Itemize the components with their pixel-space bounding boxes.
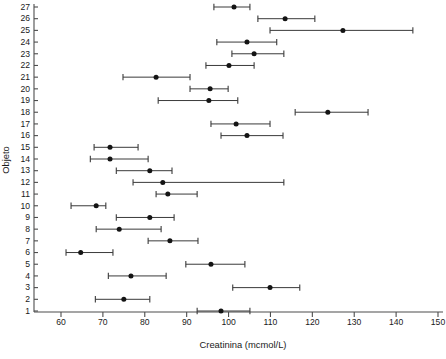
data-point-marker (147, 168, 152, 173)
data-point-marker (121, 297, 126, 302)
x-tick-label: 150 (431, 317, 446, 327)
y-tick-label: 17 (20, 119, 30, 129)
y-tick-label: 5 (25, 259, 30, 269)
x-tick-label: 90 (182, 317, 192, 327)
y-tick-label: 14 (20, 154, 30, 164)
data-point-marker (147, 215, 152, 220)
data-point-marker (128, 273, 133, 278)
x-tick-label: 70 (98, 317, 108, 327)
data-point-marker (219, 309, 224, 314)
y-axis-title: Objeto (0, 146, 11, 174)
y-tick-label: 27 (20, 2, 30, 12)
plot-background (0, 0, 446, 359)
data-point-marker (108, 157, 113, 162)
x-tick-label: 80 (140, 317, 150, 327)
y-tick-label: 3 (25, 282, 30, 292)
data-point-marker (165, 192, 170, 197)
data-point-marker (117, 227, 122, 232)
data-point-marker (325, 110, 330, 115)
y-tick-label: 11 (21, 189, 30, 199)
data-point-marker (154, 75, 159, 80)
x-axis-title: Creatinina (mcmol/L) (199, 339, 286, 350)
data-point-marker (160, 180, 165, 185)
data-point-marker (244, 40, 249, 45)
data-point-marker (94, 203, 99, 208)
data-point-marker (244, 133, 249, 138)
y-tick-label: 15 (20, 142, 30, 152)
data-point-marker (268, 285, 273, 290)
y-tick-label: 18 (20, 107, 30, 117)
y-tick-label: 9 (25, 212, 30, 222)
y-tick-label: 1 (25, 306, 30, 316)
data-point-marker (78, 250, 83, 255)
x-tick-label: 100 (221, 317, 236, 327)
y-tick-label: 20 (20, 84, 30, 94)
y-tick-label: 12 (20, 177, 30, 187)
y-tick-label: 2 (25, 294, 30, 304)
y-tick-label: 6 (25, 247, 30, 257)
y-tick-label: 25 (20, 25, 30, 35)
data-point-marker (167, 238, 172, 243)
data-point-marker (208, 86, 213, 91)
creatinine-interval-plot: 1234567891011121314151617181920212223242… (0, 0, 446, 359)
x-tick-label: 120 (305, 317, 320, 327)
y-tick-label: 7 (25, 236, 30, 246)
x-tick-label: 60 (56, 317, 66, 327)
y-tick-label: 21 (20, 72, 30, 82)
y-tick-label: 24 (20, 37, 30, 47)
data-point-marker (232, 5, 237, 10)
data-point-marker (283, 16, 288, 21)
data-point-marker (206, 98, 211, 103)
y-tick-label: 10 (20, 201, 30, 211)
y-tick-label: 23 (20, 49, 30, 59)
y-tick-label: 26 (20, 13, 30, 23)
y-tick-label: 19 (20, 95, 30, 105)
data-point-marker (108, 145, 113, 150)
y-tick-label: 16 (20, 130, 30, 140)
data-point-marker (340, 28, 345, 33)
y-tick-label: 4 (25, 271, 30, 281)
y-tick-label: 22 (20, 60, 30, 70)
x-tick-label: 110 (264, 317, 278, 327)
data-point-marker (234, 121, 239, 126)
y-tick-label: 8 (25, 224, 30, 234)
data-point-marker (252, 51, 257, 56)
data-point-marker (208, 262, 213, 267)
x-tick-label: 130 (347, 317, 362, 327)
y-tick-label: 13 (20, 165, 30, 175)
chart-container: 1234567891011121314151617181920212223242… (0, 0, 446, 359)
x-tick-label: 140 (389, 317, 404, 327)
data-point-marker (226, 63, 231, 68)
